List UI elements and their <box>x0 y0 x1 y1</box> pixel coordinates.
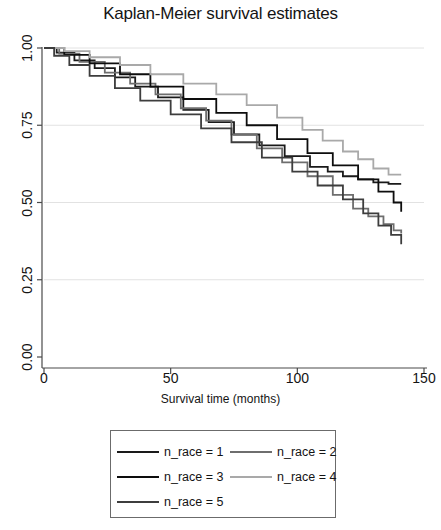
series-line-4 <box>44 48 401 175</box>
x-tick-label: 150 <box>412 370 435 386</box>
legend-line-swatch <box>230 451 272 453</box>
series-line-5 <box>44 48 401 244</box>
plot-area <box>0 0 441 400</box>
x-tick-label: 100 <box>286 370 309 386</box>
legend-item-label: n_race = 4 <box>277 470 336 484</box>
x-axis-title: Survival time (months) <box>0 392 441 406</box>
legend-item[interactable]: n_race = 5 <box>117 495 230 509</box>
legend-item-label: n_race = 5 <box>164 495 223 509</box>
legend-item-label: n_race = 1 <box>164 445 223 459</box>
x-tick-label: 0 <box>40 370 48 386</box>
legend-line-swatch <box>117 501 159 503</box>
legend-item[interactable]: n_race = 4 <box>230 470 331 484</box>
y-tick-label: 0.00 <box>19 340 35 374</box>
series-line-3 <box>44 48 401 212</box>
chart-title: Kaplan-Meier survival estimates <box>0 4 441 24</box>
legend-item[interactable]: n_race = 1 <box>117 445 230 459</box>
x-tick-label: 50 <box>163 370 179 386</box>
y-tick-label: 0.75 <box>19 108 35 142</box>
legend-item[interactable]: n_race = 3 <box>117 470 230 484</box>
y-tick-label: 1.00 <box>19 31 35 65</box>
legend-item[interactable]: n_race = 2 <box>230 445 331 459</box>
kaplan-meier-chart: Kaplan-Meier survival estimates 05010015… <box>0 0 441 530</box>
y-tick-label: 0.25 <box>19 263 35 297</box>
legend-item-label: n_race = 2 <box>277 445 336 459</box>
legend: n_race = 1n_race = 2n_race = 3n_race = 4… <box>110 430 336 518</box>
legend-entries: n_race = 1n_race = 2n_race = 3n_race = 4… <box>117 439 331 514</box>
legend-line-swatch <box>117 451 159 453</box>
legend-item-label: n_race = 3 <box>164 470 223 484</box>
legend-line-swatch <box>117 476 159 478</box>
legend-line-swatch <box>230 476 272 478</box>
series-line-1 <box>44 48 401 184</box>
y-tick-label: 0.50 <box>19 186 35 220</box>
